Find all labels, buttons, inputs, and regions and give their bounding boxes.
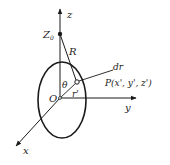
- p-point: [75, 80, 79, 84]
- x-axis-label: x: [23, 145, 29, 156]
- z0-point: [58, 32, 62, 36]
- coordinate-diagram: z y x Z0 R O θ r' dr P(x', y', z'): [0, 0, 170, 165]
- r-distance-label: R: [68, 46, 77, 57]
- z0-label: Z0: [42, 29, 54, 41]
- distance-r-line: [60, 34, 76, 80]
- p-coordinates-label: P(x', y', z'): [104, 78, 152, 88]
- origin-point: [59, 97, 62, 100]
- theta-label: θ: [62, 80, 68, 90]
- y-axis-label: y: [124, 102, 131, 113]
- z-axis-label: z: [66, 9, 73, 20]
- origin-label: O: [49, 93, 57, 104]
- r-prime-label: r': [72, 89, 79, 99]
- dr-label: dr: [113, 62, 124, 72]
- current-loop-ellipse: [38, 62, 86, 138]
